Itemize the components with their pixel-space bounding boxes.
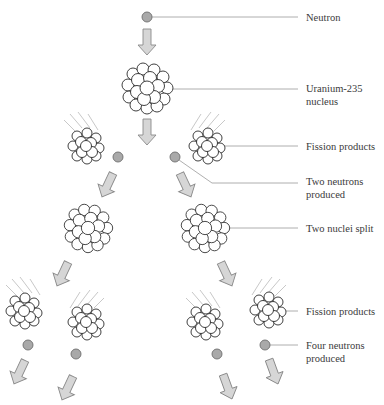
arrow-down-icon: [138, 119, 156, 145]
fission-product-icon: [187, 304, 223, 340]
arrow-diagonal-icon: [49, 259, 76, 290]
label-four-neutrons: Four neutrons produced: [306, 339, 365, 365]
nucleus-icon: [64, 204, 112, 252]
fission-product-icon: [189, 128, 225, 164]
nucleus-icon: [181, 204, 229, 252]
arrow-down-icon: [138, 29, 156, 55]
label-fission-products-2: Fission products: [306, 305, 375, 318]
neutron-icon: [71, 349, 81, 359]
fission-product-icon: [6, 293, 42, 329]
motion-streak-icon: [64, 112, 98, 132]
neutron-icon: [260, 340, 270, 350]
fission-product-icon: [68, 128, 104, 164]
label-uranium-nucleus: Uranium-235 nucleus: [306, 82, 363, 108]
leader-lines: [152, 17, 298, 345]
uranium-nucleus-icon: [122, 63, 173, 114]
arrow-diagonal-icon: [54, 373, 81, 404]
label-two-neutrons: Two neutrons produced: [306, 175, 363, 201]
neutron-icon: [23, 340, 33, 350]
arrow-diagonal-icon: [261, 356, 287, 387]
fission-product-icon: [250, 292, 286, 328]
arrow-diagonal-icon: [94, 170, 121, 201]
arrow-diagonal-icon: [213, 259, 240, 290]
arrow-diagonal-icon: [215, 371, 241, 402]
arrow-diagonal-icon: [6, 357, 33, 388]
neutron-icon: [113, 152, 123, 162]
fission-product-icon: [68, 304, 104, 340]
label-neutron: Neutron: [306, 11, 340, 24]
neutron-icon: [170, 152, 180, 162]
label-two-nuclei-split: Two nuclei split: [306, 222, 374, 235]
label-fission-products-1: Fission products: [306, 140, 375, 153]
neutron-icon: [142, 12, 152, 22]
neutron-icon: [212, 349, 222, 359]
arrow-diagonal-icon: [172, 170, 199, 201]
